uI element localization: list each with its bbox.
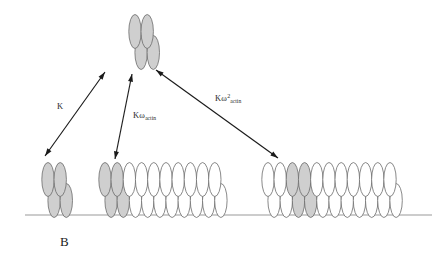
equilibrium-label-k-omega-actin: Kωactin: [133, 110, 156, 121]
subunit-upper-8: [359, 163, 371, 197]
subunit-upper-7: [347, 163, 359, 197]
subunit-upper-9: [209, 163, 221, 197]
panel-letter-b: B: [60, 234, 69, 250]
arrow-Kw: [114, 74, 133, 159]
equilibrium-label-k: K: [57, 101, 63, 111]
interior-bound-filament: [262, 163, 403, 218]
subunit-upper-1: [54, 163, 66, 197]
arrow-shaft-Kw2: [156, 70, 278, 158]
label-subscript: actin: [230, 98, 241, 104]
arrow-head-reverse-K: [45, 148, 51, 156]
subunit-upper-6: [172, 163, 184, 197]
arrow-K: [45, 72, 105, 156]
subunit-upper-2: [286, 163, 298, 197]
equilibrium-arrows-group: [45, 70, 278, 159]
figure-panel-b: K Kωactin Kω2actin B: [0, 0, 445, 262]
subunit-upper-5: [323, 163, 335, 197]
subunit-upper-10: [384, 163, 396, 197]
free-tropomyosin-dimer: [129, 15, 160, 70]
subunit-upper-4: [311, 163, 323, 197]
subunit-upper-0: [42, 163, 54, 197]
subunit-upper-6: [335, 163, 347, 197]
subunit-upper-8: [196, 163, 208, 197]
subunit-upper-0: [262, 163, 274, 197]
subunit-upper-9: [372, 163, 384, 197]
species-group: [42, 15, 403, 218]
diagram-canvas: [0, 0, 445, 262]
arrow-head-forward-K: [99, 72, 105, 80]
subunit-upper-1: [111, 163, 123, 197]
arrow-head-reverse-Kw2: [270, 152, 278, 158]
equilibrium-label-k-omega-squared-actin: Kω2actin: [215, 93, 241, 104]
label-subscript: actin: [145, 115, 156, 121]
subunit-upper-2: [123, 163, 135, 197]
arrow-Kw2: [156, 70, 278, 158]
subunit-upper-0: [129, 15, 141, 49]
arrow-shaft-Kw: [115, 74, 132, 159]
subunit-upper-5: [160, 163, 172, 197]
subunit-upper-1: [141, 15, 153, 49]
subunit-upper-3: [135, 163, 147, 197]
isolated-bound-dimer: [42, 163, 73, 218]
subunit-upper-1: [274, 163, 286, 197]
subunit-upper-4: [148, 163, 160, 197]
end-bound-filament: [99, 163, 227, 218]
subunit-upper-3: [298, 163, 310, 197]
arrow-shaft-K: [45, 72, 105, 156]
arrow-head-forward-Kw2: [156, 70, 164, 76]
subunit-upper-0: [99, 163, 111, 197]
subunit-upper-7: [184, 163, 196, 197]
